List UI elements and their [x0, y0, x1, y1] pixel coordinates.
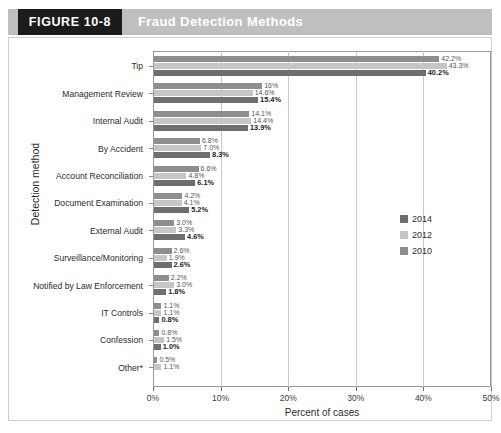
bar-2012[interactable] — [154, 255, 167, 261]
bar-2014[interactable] — [154, 275, 169, 281]
bar-2010[interactable] — [154, 234, 185, 240]
bar-2010[interactable] — [154, 289, 166, 295]
figure-banner: FIGURE 10-8 Fraud Detection Methods — [8, 9, 492, 35]
bar-row[interactable]: 16% — [154, 83, 491, 89]
bar-row[interactable]: 4.2% — [154, 193, 491, 199]
bar-2010[interactable] — [154, 152, 210, 158]
legend-item-2010[interactable]: 2010 — [400, 244, 470, 257]
bar-row[interactable]: 14.6% — [154, 90, 491, 96]
bar-value-label: 6.6% — [201, 166, 217, 172]
bar-2014[interactable] — [154, 248, 172, 254]
bar-row[interactable]: 0.8% — [154, 330, 491, 336]
bar-2010[interactable] — [154, 97, 258, 103]
bar-2014[interactable] — [154, 357, 157, 363]
bar-2012[interactable] — [154, 200, 182, 206]
bar-2010[interactable] — [154, 317, 159, 323]
bar-row[interactable]: 7.0% — [154, 145, 491, 151]
bar-2014[interactable] — [154, 111, 249, 117]
x-tick-mark — [221, 387, 222, 391]
y-tick-mark — [149, 313, 153, 314]
bar-2014[interactable] — [154, 56, 439, 62]
category-label: Document Examination — [9, 191, 147, 217]
bars-container: 6.8%7.0%8.3% — [154, 138, 491, 160]
bar-row[interactable]: 8.3% — [154, 152, 491, 158]
figure-page: FIGURE 10-8 Fraud Detection Methods 0%10… — [0, 0, 501, 433]
bar-row[interactable]: 13.9% — [154, 125, 491, 131]
bar-row[interactable]: 42.2% — [154, 56, 491, 62]
y-tick-mark — [149, 367, 153, 368]
bars-container: 1.1%1.1%0.8% — [154, 303, 491, 325]
bar-value-label: 4.6% — [187, 234, 204, 240]
bar-row[interactable]: 3.0% — [154, 282, 491, 288]
bar-2012[interactable] — [154, 118, 251, 124]
bar-row[interactable] — [154, 371, 491, 377]
chart-frame: 0%10%20%30%40%50% Percent of cases Detec… — [8, 37, 492, 421]
bar-2012[interactable] — [154, 364, 161, 370]
bar-value-label: 43.3% — [449, 63, 469, 69]
bar-row[interactable]: 2.6% — [154, 262, 491, 268]
category-label: Tip — [9, 54, 147, 80]
bar-2014[interactable] — [154, 193, 182, 199]
category-label: Notified by Law Enforcement — [9, 273, 147, 299]
bar-2012[interactable] — [154, 310, 161, 316]
bar-2010[interactable] — [154, 262, 172, 268]
bar-value-label: 2.6% — [174, 248, 190, 254]
bar-2014[interactable] — [154, 166, 199, 172]
category-label: Confession — [9, 328, 147, 354]
bar-group: Management Review16%14.6%15.4% — [9, 81, 493, 107]
bar-2010[interactable] — [154, 180, 195, 186]
bars-container: 42.2%43.3%40.2% — [154, 56, 491, 78]
bar-row[interactable]: 0.8% — [154, 317, 491, 323]
bar-group: Account Reconciliation6.6%4.8%6.1% — [9, 164, 493, 190]
bar-2014[interactable] — [154, 83, 262, 89]
bar-2012[interactable] — [154, 90, 253, 96]
bar-row[interactable]: 1.5% — [154, 337, 491, 343]
category-label: IT Controls — [9, 301, 147, 327]
bar-2010[interactable] — [154, 207, 189, 213]
bar-2010[interactable] — [154, 70, 426, 76]
y-tick-mark — [149, 340, 153, 341]
bar-row[interactable]: 1.8% — [154, 289, 491, 295]
bar-row[interactable]: 6.1% — [154, 180, 491, 186]
x-axis-title: Percent of cases — [153, 407, 491, 418]
y-tick-mark — [149, 230, 153, 231]
bar-row[interactable]: 1.1% — [154, 310, 491, 316]
x-tick-label: 30% — [347, 393, 364, 403]
bar-2014[interactable] — [154, 138, 200, 144]
bar-2010[interactable] — [154, 125, 248, 131]
bar-row[interactable]: 40.2% — [154, 70, 491, 76]
bar-row[interactable]: 0.5% — [154, 357, 491, 363]
bar-row[interactable]: 1.1% — [154, 364, 491, 370]
bar-row[interactable]: 14.4% — [154, 118, 491, 124]
bar-2014[interactable] — [154, 220, 174, 226]
bar-2012[interactable] — [154, 227, 176, 233]
bar-2012[interactable] — [154, 145, 201, 151]
bar-value-label: 40.2% — [428, 70, 449, 76]
bar-group: By Accident6.8%7.0%8.3% — [9, 136, 493, 162]
category-label: Management Review — [9, 81, 147, 107]
bar-2012[interactable] — [154, 63, 447, 69]
bar-value-label: 15.4% — [260, 97, 281, 103]
x-tick-mark — [491, 387, 492, 391]
bar-2012[interactable] — [154, 173, 186, 179]
x-tick-mark — [288, 387, 289, 391]
bar-row[interactable]: 6.6% — [154, 166, 491, 172]
y-tick-mark — [149, 148, 153, 149]
bar-value-label: 8.3% — [212, 152, 229, 158]
legend-label-2014: 2014 — [412, 214, 432, 224]
bar-value-label: 6.1% — [197, 180, 214, 186]
bar-2014[interactable] — [154, 330, 159, 336]
y-tick-mark — [149, 258, 153, 259]
bar-group: Tip42.2%43.3%40.2% — [9, 54, 493, 80]
bar-2010[interactable] — [154, 344, 161, 350]
bar-row[interactable]: 1.1% — [154, 303, 491, 309]
legend-item-2012[interactable]: 2012 — [400, 228, 470, 241]
bar-row[interactable]: 2.2% — [154, 275, 491, 281]
bar-row[interactable]: 14.1% — [154, 111, 491, 117]
bar-row[interactable]: 15.4% — [154, 97, 491, 103]
bars-container: 0.5%1.1% — [154, 357, 491, 379]
y-tick-mark — [149, 66, 153, 67]
bar-row[interactable]: 1.0% — [154, 344, 491, 350]
bar-2014[interactable] — [154, 303, 161, 309]
legend-item-2014[interactable]: 2014 — [400, 212, 470, 225]
